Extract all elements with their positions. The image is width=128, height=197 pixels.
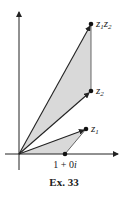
label-unit: 1 + 0i — [53, 159, 77, 170]
point-unit — [63, 152, 68, 157]
label-z1: z1 — [90, 122, 99, 136]
label-z1z2: z1z2 — [95, 17, 112, 31]
caption: Ex. 33 — [49, 176, 79, 188]
point-z2 — [89, 89, 94, 94]
label-z2: z2 — [95, 84, 104, 98]
point-z1z2 — [89, 22, 94, 27]
diagram: z1z2 z2 z1 1 + 0i Ex. 33 — [0, 0, 128, 197]
point-z1 — [84, 127, 89, 132]
